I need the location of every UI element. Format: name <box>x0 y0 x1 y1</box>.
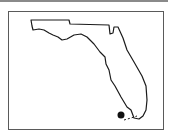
florida-map <box>9 12 165 131</box>
location-marker-icon <box>118 112 125 119</box>
top-divider <box>0 0 168 2</box>
map-frame <box>8 11 164 130</box>
florida-outline <box>31 20 147 119</box>
